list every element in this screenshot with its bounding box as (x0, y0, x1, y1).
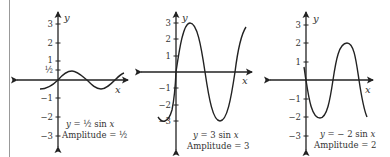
tick-3: 3 (296, 20, 301, 30)
tick-minus-2: −2 (40, 112, 53, 122)
tick-minus-1: −1 (288, 94, 301, 104)
graph-neg2-sin: 3 2 1 −1 −2 −3 y x y = − 2 sin x Amplitu… (270, 12, 376, 150)
y-axis-label: y (312, 13, 319, 24)
amplitude-label: Amplitude = 2 (313, 140, 376, 150)
tick-2: 2 (48, 38, 53, 48)
sine-amplitude-figure: 3 2 1 ½ −1 −2 −3 y x y = ½ sin x Amplitu… (0, 0, 390, 157)
tick-1: 1 (166, 51, 171, 61)
tick-2: 2 (166, 34, 171, 44)
tick-minus-2: −2 (288, 112, 301, 122)
amplitude-label: Amplitude = ½ (61, 130, 127, 140)
x-axis-label: x (115, 84, 121, 95)
y-axis-label: y (181, 12, 188, 23)
tick-1: 1 (48, 55, 53, 65)
y-axis-label: y (63, 12, 70, 23)
tick-minus-2: −2 (158, 100, 171, 110)
tick-3: 3 (48, 19, 53, 29)
tick-minus-1: −1 (40, 93, 53, 103)
x-axis-label: x (365, 84, 371, 95)
equation-label: y = 3 sin x (192, 130, 239, 140)
graph-3-sin: 3 2 1 −1 −2 −3 y x y = 3 sin x Amplitude… (141, 12, 252, 151)
tick-minus-1: −1 (158, 83, 171, 93)
graph-half-sin: 3 2 1 ½ −1 −2 −3 y x y = ½ sin x Amplitu… (17, 12, 128, 147)
tick-minus-3: −3 (288, 131, 301, 141)
equation-label: y = ½ sin x (65, 119, 115, 129)
tick-3: 3 (166, 18, 171, 28)
amplitude-label: Amplitude = 3 (186, 141, 249, 151)
tick-half: ½ (45, 65, 53, 75)
equation-label: y = − 2 sin x (319, 129, 376, 139)
x-axis-label: x (242, 75, 248, 86)
tick-2: 2 (296, 38, 301, 48)
tick-1: 1 (296, 57, 301, 67)
tick-minus-3: −3 (40, 131, 53, 141)
